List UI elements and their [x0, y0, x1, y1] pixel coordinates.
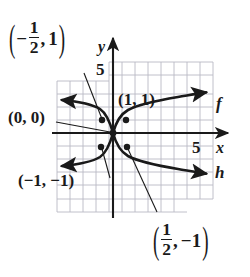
- point-half-neg-one: [124, 144, 130, 150]
- fraction-numerator: 1: [29, 19, 40, 37]
- point-one-one: [123, 117, 129, 123]
- label-origin: (0, 0): [8, 109, 45, 126]
- paren-open: (: [153, 221, 159, 260]
- graph-grid: [57, 62, 213, 212]
- curve-label-h: h: [215, 164, 224, 181]
- label-neg-half-one: ( − 1 2 , 1 ): [8, 20, 66, 58]
- fraction-denominator: 2: [29, 38, 40, 56]
- x-axis-tick-5: 5: [192, 139, 201, 156]
- point-origin: [110, 130, 117, 137]
- leader-half-neg-one: [128, 149, 157, 212]
- fraction-one-half: 1 2: [161, 221, 172, 259]
- paren-open: (: [9, 19, 15, 58]
- label-half-neg-one: ( 1 2 , −1 ): [152, 222, 209, 260]
- paren-close: ): [202, 221, 208, 260]
- y-axis-label: y: [98, 39, 105, 55]
- y-axis-tick-5: 5: [96, 61, 105, 78]
- fraction-numerator: 1: [161, 221, 172, 239]
- x-axis-label: x: [216, 140, 224, 156]
- curve-h: [62, 133, 206, 174]
- minus-sign: −: [16, 29, 27, 48]
- y-value: 1: [48, 29, 58, 48]
- comma: ,: [40, 29, 45, 48]
- comma: ,: [173, 231, 178, 250]
- paren-close: ): [59, 19, 65, 58]
- fraction-one-half: 1 2: [29, 19, 40, 57]
- leader-neg-half-one: [84, 73, 102, 119]
- point-neg-one-neg-one: [98, 144, 104, 150]
- y-value: −1: [181, 231, 201, 250]
- fraction-denominator: 2: [161, 240, 172, 258]
- label-one-one: (1, 1): [118, 91, 155, 108]
- curve-label-f: f: [216, 95, 222, 112]
- label-neg-one-neg-one: (−1, −1): [18, 172, 74, 189]
